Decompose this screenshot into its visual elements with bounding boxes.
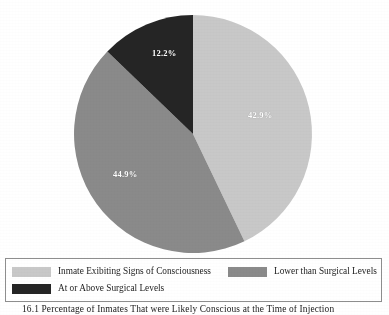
legend-row: Inmate Exibiting Signs of Consciousness … [6, 263, 381, 280]
figure-caption: 16.1 Percentage of Inmates That were Lik… [0, 305, 389, 315]
pie-svg [0, 0, 389, 258]
legend-swatch-light-icon [12, 267, 51, 277]
slice-label-light: 42.9% [248, 110, 272, 120]
legend-swatch-medium-icon [228, 267, 267, 277]
legend-label: Lower than Surgical Levels [274, 267, 377, 276]
legend-swatch-dark-icon [12, 284, 51, 294]
legend-label: Inmate Exibiting Signs of Consciousness [58, 267, 211, 276]
legend-label: At or Above Surgical Levels [58, 284, 164, 293]
legend-item-at-or-above-surgical-levels[interactable]: At or Above Surgical Levels [12, 284, 228, 294]
slice-label-medium: 44.9% [113, 169, 137, 179]
legend-item-inmate-exibiting-signs-of-consciousness[interactable]: Inmate Exibiting Signs of Consciousness [12, 267, 228, 277]
pie-plot-area: 42.9% 44.9% 12.2% [0, 0, 389, 258]
legend-item-lower-than-surgical-levels[interactable]: Lower than Surgical Levels [228, 267, 377, 277]
pie-slices [74, 15, 312, 253]
legend-row: At or Above Surgical Levels [6, 280, 381, 297]
legend-box: Inmate Exibiting Signs of Consciousness … [5, 258, 382, 302]
figure-caption-text: 16.1 Percentage of Inmates That were Lik… [22, 305, 334, 314]
slice-label-dark: 12.2% [152, 48, 176, 58]
pie-chart-figure: 42.9% 44.9% 12.2% Inmate Exibiting Signs… [0, 0, 389, 315]
